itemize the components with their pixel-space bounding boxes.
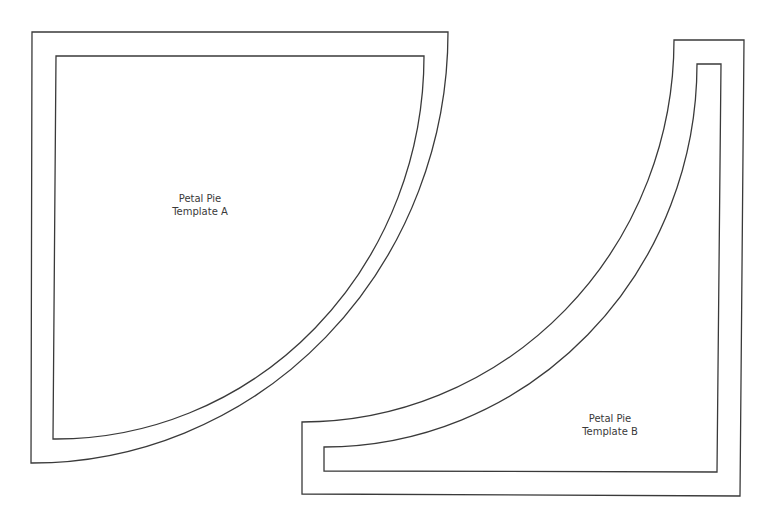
template-a-label: Petal Pie Template A	[140, 192, 260, 218]
template-a-inner-outline	[53, 56, 424, 439]
template-a-label-line1: Petal Pie	[140, 192, 260, 205]
template-b-shape	[302, 40, 744, 496]
template-b-label: Petal Pie Template B	[550, 412, 670, 438]
template-b-label-line2: Template B	[550, 425, 670, 438]
template-a-shape	[31, 32, 448, 463]
template-b-inner-outline	[324, 64, 721, 472]
template-b-outer-outline	[302, 40, 744, 496]
template-a-outer-outline	[31, 32, 448, 463]
template-sheet	[0, 0, 757, 523]
template-a-label-line2: Template A	[140, 205, 260, 218]
template-b-label-line1: Petal Pie	[550, 412, 670, 425]
